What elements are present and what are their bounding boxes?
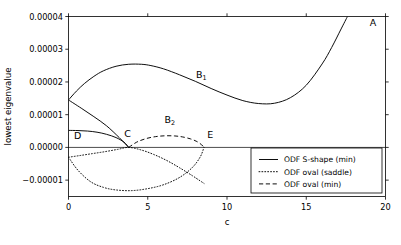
figure-background (0, 0, 401, 245)
y-tick-label: 0.00002 (29, 77, 63, 87)
y-tick-label: 0.00000 (29, 142, 63, 152)
y-tick-label: 0.00004 (29, 12, 63, 22)
y-tick-label: −0.00001 (22, 175, 63, 185)
y-tick-label: 0.00001 (29, 110, 63, 120)
chart-figure: −0.000010.000000.000010.000020.000030.00… (0, 0, 401, 245)
legend-label-1: ODF oval (saddle) (284, 168, 352, 177)
x-tick-label: 20 (380, 202, 390, 212)
x-axis-title: c (225, 217, 230, 227)
annotation-C: C (124, 128, 131, 139)
y-tick-label: 0.00003 (29, 44, 63, 54)
annotation-E: E (207, 129, 213, 140)
legend-label-2: ODF oval (min) (284, 180, 341, 189)
legend-label-0: ODF S-shape (min) (284, 155, 356, 164)
x-tick-label: 10 (222, 202, 232, 212)
x-tick-label: 5 (145, 202, 150, 212)
y-axis-title: lowest eigenvalue (3, 68, 13, 146)
annotation-A: A (370, 17, 377, 28)
x-tick-label: 0 (66, 202, 71, 212)
annotation-D: D (74, 130, 81, 141)
x-tick-label: 15 (301, 202, 311, 212)
chart-legend: ODF S-shape (min)ODF oval (saddle)ODF ov… (251, 148, 382, 193)
eigenvalue-plot: −0.000010.000000.000010.000020.000030.00… (0, 0, 401, 245)
